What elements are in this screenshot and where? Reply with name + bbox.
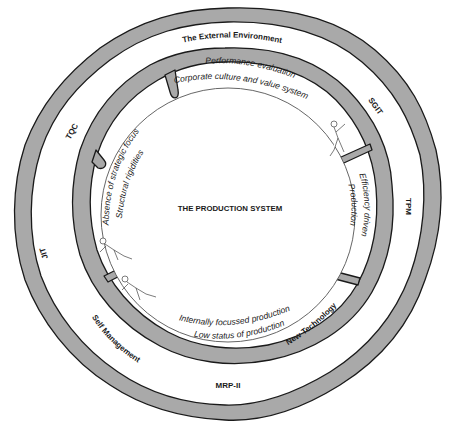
- label-jit: JIT: [38, 246, 50, 260]
- external-environment-label: The External Environment: [182, 30, 284, 45]
- center-title: THE PRODUCTION SYSTEM: [178, 204, 282, 213]
- label-efficiency-driven: Efficiency driven: [357, 172, 372, 238]
- label-mrp-ii: MRP-II: [216, 381, 241, 390]
- label-sgit: SGIT: [366, 96, 384, 117]
- production-system-circle: [101, 88, 355, 342]
- label-tpm: TPM: [404, 198, 413, 215]
- production-system-diagram: The External Environment SGIT TPM New Te…: [0, 0, 456, 430]
- label-tqc: TQC: [64, 122, 80, 141]
